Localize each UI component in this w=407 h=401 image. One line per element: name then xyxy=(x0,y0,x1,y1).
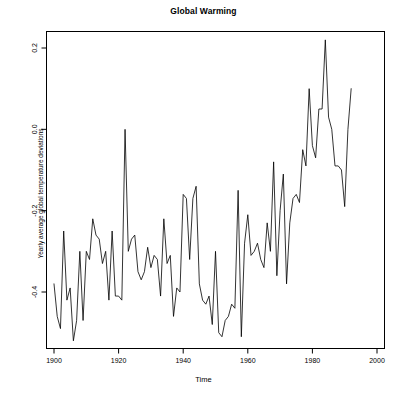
x-tick-label: 1900 xyxy=(46,357,62,364)
plot-area: 190019201940196019802000 0.20.0-0.2-0.4 xyxy=(0,0,407,401)
y-tick-label: 0.0 xyxy=(31,124,38,134)
chart-canvas: Global Warming Yearly average global tem… xyxy=(0,0,407,401)
x-tick-label: 1940 xyxy=(175,357,191,364)
x-tick-label: 1980 xyxy=(305,357,321,364)
y-tick-label: -0.2 xyxy=(31,205,38,217)
x-tick-label: 1960 xyxy=(240,357,256,364)
temperature-series xyxy=(54,40,351,341)
y-tick-label: -0.4 xyxy=(31,286,38,298)
x-tick-label: 2000 xyxy=(369,357,385,364)
x-tick-label: 1920 xyxy=(111,357,127,364)
y-tick-label: 0.2 xyxy=(31,43,38,53)
x-axis-ticks: 190019201940196019802000 xyxy=(46,349,385,364)
y-axis-ticks: 0.20.0-0.2-0.4 xyxy=(31,43,46,298)
axis-box xyxy=(47,32,385,349)
